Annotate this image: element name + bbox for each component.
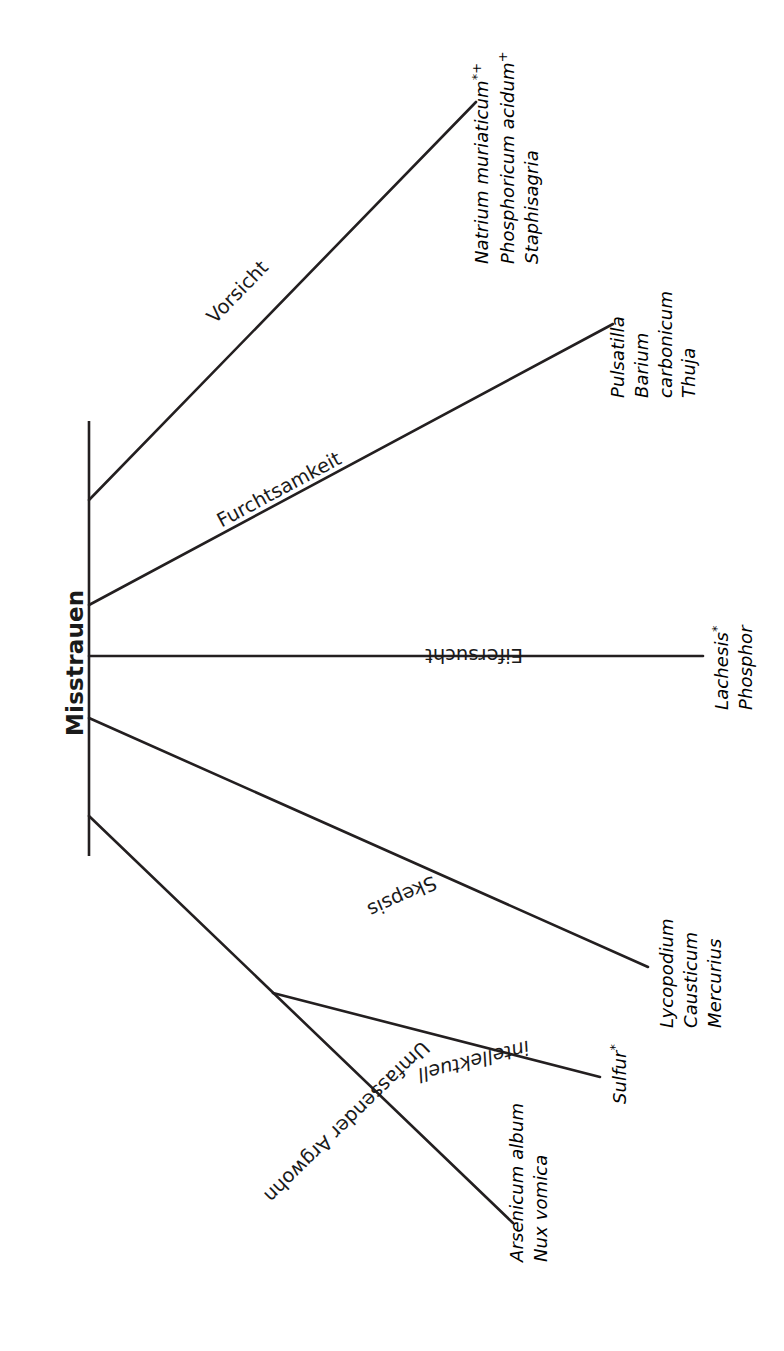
remedy-mercurius: Mercurius	[703, 918, 727, 1028]
remedy-thuja: Thuja	[677, 220, 701, 398]
diagram-canvas: Misstrauen Vorsicht Furchtsamkeit Eifers…	[0, 0, 784, 1351]
branch-label-eifersucht: Eifersucht	[425, 644, 523, 667]
remedy-group-eifersucht: Lachesis* Phosphor	[708, 625, 758, 710]
remedy-nux-vomica: Nux vomica	[529, 1103, 553, 1262]
remedy-mark: *	[709, 625, 724, 632]
remedy-pulsatilla: Pulsatilla	[606, 220, 630, 398]
branch-line-skepsis	[89, 718, 648, 967]
branch-line-vorsicht	[89, 102, 476, 500]
remedy-group-furchtsamkeit: Pulsatilla Barium carbonicum Thuja	[606, 220, 701, 398]
remedy-barium-carbonicum: Barium carbonicum	[630, 220, 678, 398]
remedy-group-argwohn: Arsenicum album Nux vomica	[505, 1103, 553, 1262]
remedy-mark: +	[495, 51, 510, 62]
remedy-group-vorsicht: Natrium muriaticum*+ Phosphoricum acidum…	[468, 51, 543, 264]
remedy-lachesis: Lachesis*	[708, 625, 734, 710]
remedy-group-skepsis: Lycopodium Causticum Mercurius	[655, 918, 726, 1028]
remedy-causticum: Causticum	[679, 918, 703, 1028]
root-label-misstrauen: Misstrauen	[62, 590, 88, 736]
tree-lines	[0, 0, 784, 1351]
remedy-mark: *+	[469, 63, 484, 81]
remedy-phosphoricum-acidum: Phosphoricum acidum+	[494, 51, 520, 264]
remedy-natrium-muriaticum: Natrium muriaticum*+	[468, 51, 494, 264]
remedy-staphisagria: Staphisagria	[520, 51, 544, 264]
remedy-lycopodium: Lycopodium	[655, 918, 679, 1028]
remedy-phosphor: Phosphor	[734, 625, 758, 710]
remedy-group-intellektuell: Sulfur*	[606, 1044, 632, 1104]
branch-line-furchtsamkeit	[89, 324, 613, 605]
remedy-mark: *	[607, 1044, 622, 1051]
remedy-sulfur: Sulfur*	[606, 1044, 632, 1104]
remedy-arsenicum-album: Arsenicum album	[505, 1103, 529, 1262]
